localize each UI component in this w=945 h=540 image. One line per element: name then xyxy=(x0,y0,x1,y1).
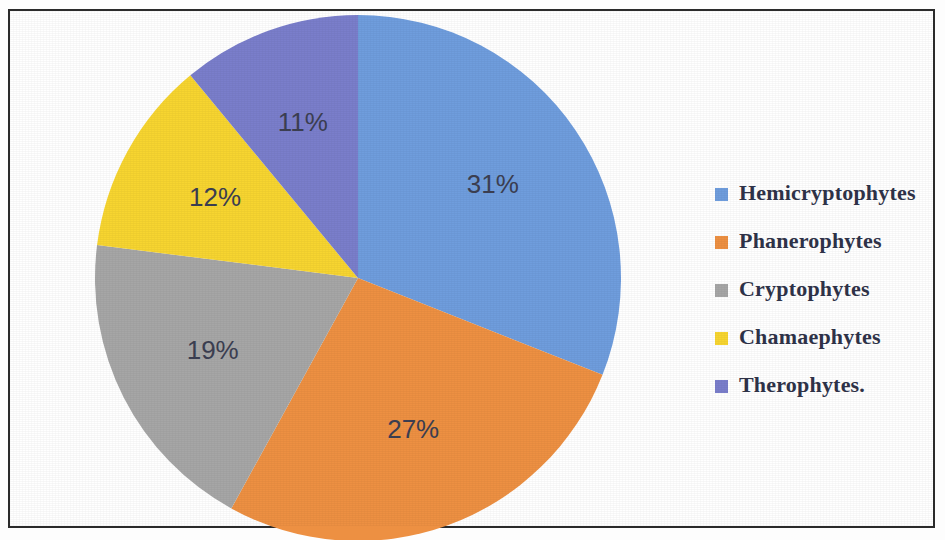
legend-item-label: Cryptophytes xyxy=(739,276,870,302)
legend-item[interactable]: Therophytes. xyxy=(715,361,943,409)
legend-color-swatch xyxy=(715,188,728,201)
chart-frame: 31%27%19%12%11% HemicryptophytesPhanerop… xyxy=(8,9,935,528)
pie-plot-area: 31%27%19%12%11% xyxy=(20,22,710,537)
pie-data-label: 27% xyxy=(387,414,439,444)
legend-item[interactable]: Cryptophytes xyxy=(715,265,943,313)
legend-item[interactable]: Phanerophytes xyxy=(715,217,943,265)
legend-item-label: Phanerophytes xyxy=(739,228,882,254)
legend-item-label: Therophytes. xyxy=(739,372,865,398)
pie-slice-group xyxy=(95,15,621,540)
legend-item[interactable]: Hemicryptophytes xyxy=(715,169,943,217)
pie-data-label: 31% xyxy=(467,169,519,199)
pie-chart: 31%27%19%12%11% xyxy=(20,10,710,537)
legend-color-swatch xyxy=(715,284,728,297)
legend: HemicryptophytesPhanerophytesCryptophyte… xyxy=(715,169,943,409)
pie-data-label: 19% xyxy=(187,335,239,365)
pie-data-label: 12% xyxy=(189,182,241,212)
chart-page: 31%27%19%12%11% HemicryptophytesPhanerop… xyxy=(0,0,945,540)
pie-data-label: 11% xyxy=(278,107,328,137)
legend-color-swatch xyxy=(715,332,728,345)
legend-item-label: Chamaephytes xyxy=(739,324,881,350)
legend-color-swatch xyxy=(715,236,728,249)
legend-item[interactable]: Chamaephytes xyxy=(715,313,943,361)
legend-item-label: Hemicryptophytes xyxy=(739,180,916,206)
legend-color-swatch xyxy=(715,380,728,393)
